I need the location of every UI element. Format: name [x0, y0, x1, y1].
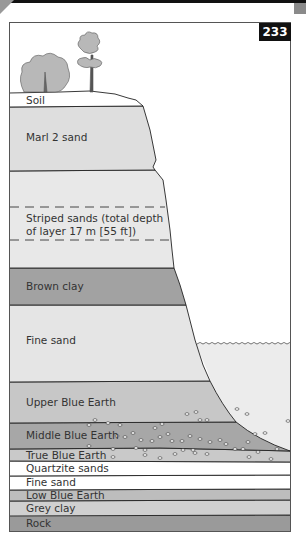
label-middle-blue-earth: Middle Blue Earth [26, 429, 119, 441]
layer-rock [9, 515, 291, 535]
water-surface [197, 343, 293, 345]
label-true-blue-earth: True Blue Earth [26, 449, 106, 461]
label-brown-clay: Brown clay [26, 280, 84, 292]
page-number-badge: 233 [259, 23, 291, 41]
tree-pine-icon [78, 32, 102, 92]
label-upper-blue-earth: Upper Blue Earth [26, 396, 116, 408]
label-grey-clay: Grey clay [26, 502, 76, 514]
tree-broadleaf-icon [20, 53, 69, 92]
label-fine-sand-lower: Fine sand [26, 476, 76, 488]
label-quartzite-sands: Quartzite sands [26, 462, 109, 474]
label-fine-sand: Fine sand [26, 334, 76, 346]
label-striped-sands-line2: of layer 17 m [55 ft]) [26, 225, 136, 237]
label-rock: Rock [26, 517, 51, 529]
label-soil: Soil [26, 94, 45, 106]
label-low-blue-earth: Low Blue Earth [26, 489, 105, 501]
label-striped-sands-line1: Striped sands (total depth [26, 212, 163, 224]
label-marl-sand: Marl 2 sand [26, 131, 87, 143]
